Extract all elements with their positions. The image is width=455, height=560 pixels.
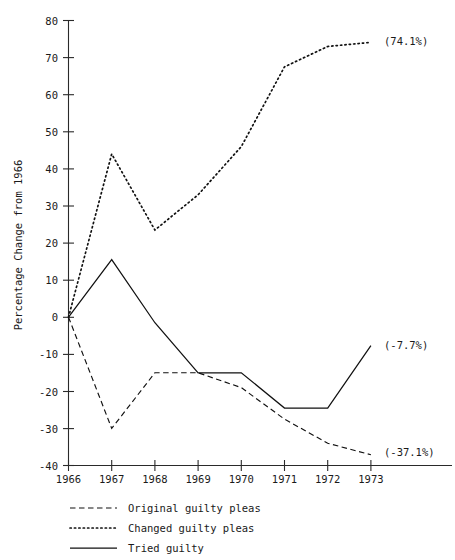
line-chart: 80 70 60 50 40 30 20 10 0 -10 -20 -30 — [0, 0, 455, 560]
y-tick-label: -10 — [39, 348, 58, 360]
series-original-guilty-pleas — [69, 317, 371, 455]
x-tick-label: 1967 — [99, 473, 124, 485]
y-tick-label: 10 — [45, 274, 58, 286]
y-tick-label: 20 — [45, 237, 58, 249]
legend-item-tried-guilty[interactable]: Tried guilty — [70, 542, 204, 554]
series-tried-guilty — [69, 260, 371, 408]
y-tick-label: 50 — [45, 126, 58, 138]
y-tick-label: 0 — [52, 311, 58, 323]
legend-label: Tried guilty — [128, 542, 204, 554]
y-axis-title: Percentage Change from 1966 — [12, 160, 24, 331]
annotation-tried-guilty: (-7.7%) — [384, 339, 428, 351]
x-tick-label: 1969 — [185, 473, 210, 485]
series-group — [69, 42, 371, 454]
x-tick-label: 1968 — [142, 473, 167, 485]
x-tick-label: 1972 — [315, 473, 340, 485]
y-tick-label: 70 — [45, 52, 58, 64]
x-tick-label: 1973 — [358, 473, 383, 485]
y-tick-label: 40 — [45, 163, 58, 175]
y-tick-label: 80 — [45, 15, 58, 27]
x-tick-label: 1970 — [229, 473, 254, 485]
series-changed-guilty-pleas — [69, 42, 371, 317]
x-tick-label: 1966 — [56, 473, 81, 485]
y-tick-label: -40 — [39, 460, 58, 472]
annotation-changed-guilty-pleas: (74.1%) — [384, 35, 428, 47]
chart-page: 80 70 60 50 40 30 20 10 0 -10 -20 -30 — [0, 0, 455, 560]
legend: Original guilty pleas Changed guilty ple… — [70, 502, 261, 554]
y-tick-label: -30 — [39, 423, 58, 435]
axes-group — [69, 20, 453, 466]
y-tick-label: -20 — [39, 386, 58, 398]
legend-item-original-guilty-pleas[interactable]: Original guilty pleas — [70, 502, 261, 514]
legend-label: Changed guilty pleas — [128, 522, 254, 534]
x-tick-label: 1971 — [272, 473, 297, 485]
annotations-group: (74.1%) (-7.7%) (-37.1%) — [384, 35, 435, 458]
x-axis-ticks: 1966 1967 1968 1969 1970 1971 1972 1973 — [56, 460, 384, 485]
legend-label: Original guilty pleas — [128, 502, 261, 514]
y-tick-label: 60 — [45, 89, 58, 101]
annotation-original-guilty-pleas: (-37.1%) — [384, 446, 435, 458]
y-tick-label: 30 — [45, 200, 58, 212]
legend-item-changed-guilty-pleas[interactable]: Changed guilty pleas — [70, 522, 254, 534]
